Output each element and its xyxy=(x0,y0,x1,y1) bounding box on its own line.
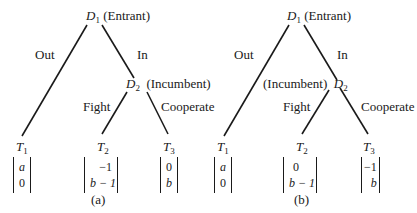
game-tree-b: D1 (Entrant) Out In (Incumbent) D2 Fight… xyxy=(207,0,417,213)
payoff-entrant: a xyxy=(19,159,25,175)
payoff-incumbent: b − 1 xyxy=(90,175,112,191)
node-subscript: 1 xyxy=(296,15,301,25)
payoff-vector-t3: 0 b xyxy=(160,157,178,193)
node-subscript: 2 xyxy=(135,83,140,93)
node-role: (Entrant) xyxy=(304,8,351,23)
payoff-vector-t2: −1 b − 1 xyxy=(84,157,118,193)
node-symbol: D xyxy=(126,76,135,91)
payoff-vector-t1: a 0 xyxy=(13,157,31,193)
node-symbol: D xyxy=(287,8,296,23)
payoff-entrant: −1 xyxy=(364,159,377,175)
edge-label-out: Out xyxy=(234,48,254,62)
panel-caption-b: (b) xyxy=(294,192,309,208)
terminal-node-t1: T1 xyxy=(16,140,28,154)
payoff-incumbent: b xyxy=(166,175,172,191)
node-role: (Incumbent) xyxy=(263,76,327,91)
payoff-incumbent: 0 xyxy=(19,175,25,191)
node-subscript: 2 xyxy=(104,146,109,156)
payoff-entrant: 0 xyxy=(166,159,172,175)
node-subscript: 3 xyxy=(370,146,375,156)
terminal-node-t3: T3 xyxy=(363,140,375,154)
incumbent-node-b: (Incumbent) D2 xyxy=(263,77,348,91)
terminal-node-t2: T2 xyxy=(296,140,308,154)
payoff-incumbent: 0 xyxy=(220,175,226,191)
payoff-incumbent: b xyxy=(364,175,377,191)
root-node-a: D1 (Entrant) xyxy=(86,9,150,23)
edge-label-cooperate: Cooperate xyxy=(361,100,414,114)
payoff-vector-t2: 0 b − 1 xyxy=(283,157,317,193)
payoff-vector-t1: a 0 xyxy=(214,157,232,193)
node-subscript: 1 xyxy=(23,146,28,156)
terminal-node-t2: T2 xyxy=(97,140,109,154)
node-subscript: 3 xyxy=(170,146,175,156)
game-tree-a: D1 (Entrant) Out In D2 (Incumbent) Fight… xyxy=(0,0,210,213)
node-symbol: D xyxy=(334,76,343,91)
edge-label-fight: Fight xyxy=(83,100,110,114)
payoff-entrant: a xyxy=(220,159,226,175)
payoff-incumbent: b − 1 xyxy=(289,175,311,191)
payoff-vector-t3: −1 b xyxy=(361,157,380,193)
payoff-entrant: 0 xyxy=(289,159,311,175)
terminal-node-t1: T1 xyxy=(217,140,229,154)
node-subscript: 2 xyxy=(303,146,308,156)
node-symbol: D xyxy=(86,8,95,23)
edge-label-out: Out xyxy=(35,48,55,62)
incumbent-node-a: D2 (Incumbent) xyxy=(126,77,211,91)
node-role: (Incumbent) xyxy=(146,76,210,91)
edge-label-in: In xyxy=(137,48,148,62)
terminal-node-t3: T3 xyxy=(163,140,175,154)
node-role: (Entrant) xyxy=(103,8,150,23)
root-node-b: D1 (Entrant) xyxy=(287,9,351,23)
edge-label-in: In xyxy=(337,48,348,62)
edge-label-fight: Fight xyxy=(283,100,310,114)
node-subscript: 1 xyxy=(95,15,100,25)
node-subscript: 1 xyxy=(224,146,229,156)
payoff-entrant: −1 xyxy=(90,159,112,175)
panel-caption-a: (a) xyxy=(91,192,105,208)
node-subscript: 2 xyxy=(343,83,348,93)
